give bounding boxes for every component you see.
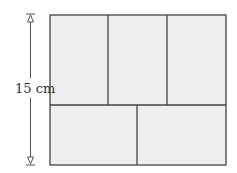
arrowhead-down-icon: [28, 157, 34, 164]
arrowhead-up-icon: [28, 15, 34, 22]
outer-rectangle: [50, 15, 226, 165]
dimension-label: 15 cm: [15, 81, 55, 96]
rectangle-diagram: 15 cm: [0, 0, 237, 173]
